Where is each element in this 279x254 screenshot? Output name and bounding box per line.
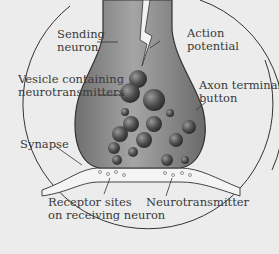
label-vesicle: Vesicle containing neurotransmitters	[18, 73, 124, 99]
label-sending-neuron: Sending neuron	[57, 28, 105, 54]
label-line: neuron	[57, 41, 105, 54]
label-action-potential: Action potential	[187, 27, 239, 53]
label-line: neurotransmitters	[18, 86, 124, 99]
label-line: on receiving neuron	[48, 209, 165, 222]
label-axon-terminal: Axon terminal button	[199, 79, 279, 105]
receiving-neuron	[42, 168, 240, 196]
label-neurotransmitter: Neurotransmitter	[146, 196, 249, 209]
label-line: Synapse	[20, 138, 69, 151]
label-line: button	[199, 92, 279, 105]
label-synapse: Synapse	[20, 138, 69, 151]
label-line: potential	[187, 40, 239, 53]
label-line: Neurotransmitter	[146, 196, 249, 209]
